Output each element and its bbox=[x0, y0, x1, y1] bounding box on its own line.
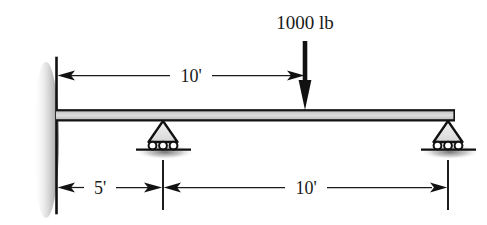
dimension-bottom-right-label: 10' bbox=[295, 178, 316, 198]
diagram-canvas: 10' 5' 10' 1000 lb bbox=[0, 0, 487, 225]
dimension-top-label: 10' bbox=[180, 66, 201, 86]
load-label: 1000 lb bbox=[276, 12, 334, 33]
roller-support-right bbox=[420, 121, 480, 160]
support-triangle-left bbox=[149, 121, 178, 142]
wall-shadow bbox=[33, 62, 59, 218]
dimension-bottom-left-label: 5' bbox=[94, 178, 106, 198]
support-triangle-right bbox=[434, 121, 463, 142]
beam-diagram: 10' 5' 10' 1000 lb bbox=[0, 0, 487, 225]
beam bbox=[56, 110, 455, 122]
dimension-bottom-left bbox=[58, 183, 163, 193]
roller-support-left bbox=[135, 121, 195, 160]
